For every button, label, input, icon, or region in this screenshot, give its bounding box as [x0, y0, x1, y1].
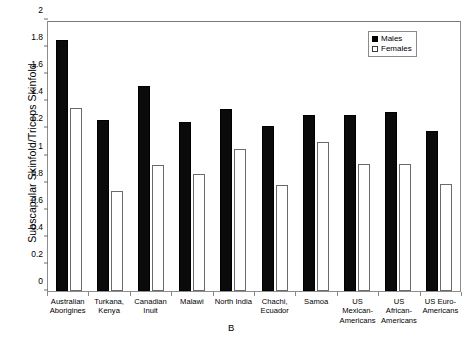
x-axis-category-label: USMexican-Americans	[337, 297, 378, 333]
x-axis-label-line: Samoa	[296, 297, 335, 306]
bar-females	[276, 185, 288, 291]
x-axis-label-line: Americans	[379, 316, 418, 325]
y-axis-tick-label: 0.4	[31, 222, 48, 232]
x-axis-label-line: Canadian	[131, 297, 170, 306]
x-axis-category-label: USAfrican-Americans	[378, 297, 419, 333]
bar-group	[295, 22, 336, 291]
y-axis-tick-mark	[44, 19, 48, 20]
x-axis-tick-mark	[47, 292, 48, 296]
y-axis-tick-label: 1.4	[31, 86, 48, 96]
y-axis-tick-label: 1.8	[31, 32, 48, 42]
x-axis-label-line: Inuit	[131, 306, 170, 315]
x-axis-label-line: African-	[379, 306, 418, 315]
filled-square-icon	[372, 36, 378, 42]
bar-males	[344, 115, 356, 291]
x-axis-tick-mark	[337, 292, 338, 296]
plot-area: 00.20.40.60.811.21.41.61.82	[47, 21, 461, 292]
x-axis-tick-mark	[213, 292, 214, 296]
x-axis-label-line: US Euro-	[421, 297, 460, 306]
x-axis-tick-mark	[254, 292, 255, 296]
x-axis-label-line: Turkana,	[89, 297, 128, 306]
bar-group	[48, 22, 89, 291]
bar-males	[56, 40, 68, 291]
bar-group	[89, 22, 130, 291]
y-axis-tick-label: 0	[38, 276, 48, 286]
x-axis-label-line: Ecuador	[255, 306, 294, 315]
x-axis-label-line: US	[379, 297, 418, 306]
x-axis-label-line: US	[338, 297, 377, 306]
y-axis-tick-label: 2	[38, 5, 48, 15]
x-axis-label-line: North India	[214, 297, 253, 306]
x-axis-label-line: Chachi,	[255, 297, 294, 306]
x-axis-tick-mark	[171, 292, 172, 296]
x-axis-category-label: Malawi	[171, 297, 212, 333]
legend-item-males: Males	[372, 34, 412, 44]
x-axis-tick-mark	[461, 292, 462, 296]
x-axis-category-label: CanadianInuit	[130, 297, 171, 333]
bar-females	[193, 174, 205, 291]
chart-legend: Males Females	[368, 31, 417, 57]
bar-females	[152, 165, 164, 291]
x-axis-label-line: Malawi	[172, 297, 211, 306]
x-axis-label-line: Americans	[338, 316, 377, 325]
bar-males	[179, 122, 191, 291]
legend-item-females: Females	[372, 44, 412, 54]
x-axis-tick-mark	[295, 292, 296, 296]
x-axis-label-line: Kenya	[89, 306, 128, 315]
bar-males	[262, 126, 274, 291]
bar-males	[220, 109, 232, 291]
bar-group	[419, 22, 460, 291]
x-axis-category-label: Samoa	[295, 297, 336, 333]
legend-label-females: Females	[381, 44, 412, 54]
x-axis-category-labels: AustralianAboriginesTurkana,KenyaCanadia…	[47, 297, 461, 333]
bar-females	[317, 142, 329, 291]
y-axis-tick-label: 0.6	[31, 195, 48, 205]
bar-group	[172, 22, 213, 291]
bar-females	[111, 191, 123, 291]
bar-group	[378, 22, 419, 291]
x-axis-category-label: Chachi,Ecuador	[254, 297, 295, 333]
x-axis-label-line: Aborigines	[48, 306, 87, 315]
bar-females	[358, 164, 370, 291]
bars-layer	[48, 22, 460, 291]
bar-females	[234, 149, 246, 291]
bar-group	[336, 22, 377, 291]
x-axis-category-label: Turkana,Kenya	[88, 297, 129, 333]
bar-males	[303, 115, 315, 291]
y-axis-tick-label: 1.6	[31, 59, 48, 69]
open-square-icon	[372, 46, 378, 52]
legend-label-males: Males	[381, 34, 402, 44]
bar-females	[399, 164, 411, 291]
y-axis-tick-label: 0.8	[31, 168, 48, 178]
bar-females	[440, 184, 452, 291]
x-axis-tick-mark	[130, 292, 131, 296]
x-axis-tick-mark	[88, 292, 89, 296]
x-axis-label-line: Americans	[421, 306, 460, 315]
bar-females	[70, 108, 82, 291]
x-axis-label-line: Australian	[48, 297, 87, 306]
y-axis-tick-label: 0.2	[31, 249, 48, 259]
bar-group	[130, 22, 171, 291]
bar-males	[97, 120, 109, 291]
bar-group	[213, 22, 254, 291]
bar-males	[138, 86, 150, 291]
y-axis-tick-label: 1.2	[31, 113, 48, 123]
x-axis-label-line: Mexican-	[338, 306, 377, 315]
panel-label: B	[228, 322, 234, 333]
y-axis-tick-label: 1	[38, 141, 48, 151]
bar-group	[254, 22, 295, 291]
bar-chart-figure: Subscapular Skinfold/Triceps Skinfold 00…	[0, 0, 469, 342]
x-axis-category-label: US Euro-Americans	[420, 297, 461, 333]
bar-males	[426, 131, 438, 291]
bar-males	[385, 112, 397, 291]
x-axis-category-label: AustralianAborigines	[47, 297, 88, 333]
x-axis-tick-mark	[378, 292, 379, 296]
x-axis-tick-mark	[420, 292, 421, 296]
